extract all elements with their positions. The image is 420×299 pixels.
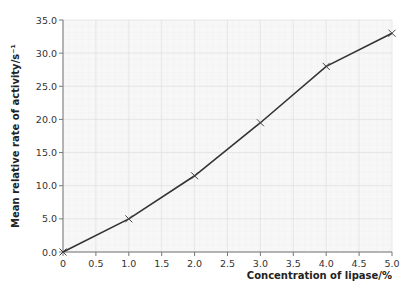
x-axis-label: Concentration of lipase/% <box>247 270 392 281</box>
y-tick-label: 15.0 <box>36 147 57 158</box>
y-tick-label: 5.0 <box>42 213 57 224</box>
y-tick-label: 10.0 <box>36 180 57 191</box>
y-tick-label: 0.0 <box>42 247 57 258</box>
x-tick-label: 2.0 <box>187 258 202 269</box>
line-chart: 0.05.010.015.020.025.030.035.0 00.51.01.… <box>0 0 420 299</box>
y-tick-label: 30.0 <box>36 48 57 59</box>
x-tick-label: 0 <box>60 258 66 269</box>
y-tick-label: 25.0 <box>36 81 57 92</box>
y-tick-label: 35.0 <box>36 15 57 26</box>
x-tick-label: 5.0 <box>384 258 399 269</box>
x-tick-label: 2.5 <box>220 258 235 269</box>
x-tick-label: 3.0 <box>253 258 268 269</box>
y-axis-label: Mean relative rate of activity/s⁻¹ <box>10 44 21 228</box>
x-tick-label: 3.5 <box>286 258 301 269</box>
x-tick-label: 4.0 <box>319 258 334 269</box>
x-tick-label: 1.5 <box>154 258 169 269</box>
y-axis-ticks: 0.05.010.015.020.025.030.035.0 <box>36 15 63 258</box>
x-axis-ticks: 00.51.01.52.02.53.03.54.04.55.0 <box>60 252 400 269</box>
y-tick-label: 20.0 <box>36 114 57 125</box>
x-tick-label: 1.0 <box>121 258 136 269</box>
x-tick-label: 0.5 <box>88 258 103 269</box>
x-tick-label: 4.5 <box>352 258 367 269</box>
